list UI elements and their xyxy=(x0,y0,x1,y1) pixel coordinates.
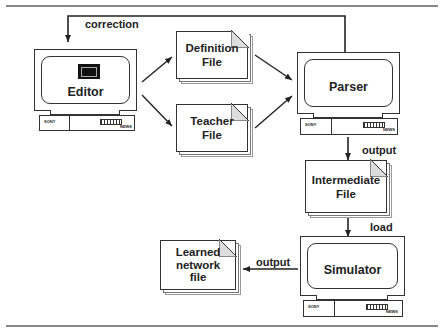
simulator-workstation: Simulator SONY NEWS xyxy=(300,236,405,318)
definition-file: DefinitionFile xyxy=(176,31,248,79)
monitor-screen: Simulator xyxy=(307,243,398,289)
disk-slot xyxy=(363,122,385,128)
simulator-title: Simulator xyxy=(308,263,397,277)
correction-label: correction xyxy=(85,18,139,30)
monitor-case: Simulator xyxy=(300,236,405,296)
simulator-output-label: output xyxy=(256,256,290,268)
monitor-screen: Parser xyxy=(304,59,393,107)
cpu-unit: SONY NEWS xyxy=(39,115,135,131)
editor-to-teacher-arrow xyxy=(142,95,172,126)
intermediate-file: IntermediateFile xyxy=(305,160,387,213)
window-icon xyxy=(78,64,100,79)
definition-to-parser-arrow xyxy=(255,55,292,80)
learned-network-file: Learnednetworkfile xyxy=(160,240,236,290)
editor-to-definition-arrow xyxy=(142,57,172,82)
parser-workstation: Parser SONY NEWS xyxy=(297,52,400,136)
workflow-diagram: correction output load output Editor SON… xyxy=(0,0,444,332)
teacher-file: TeacherFile xyxy=(176,104,248,152)
monitor-case: Editor xyxy=(34,49,137,111)
disk-slot xyxy=(366,304,388,310)
cpu-unit: SONY NEWS xyxy=(300,118,398,135)
teacher-to-parser-arrow xyxy=(255,96,292,128)
monitor-case: Parser xyxy=(297,52,400,114)
monitor-screen: Editor xyxy=(41,56,130,104)
editor-title: Editor xyxy=(42,85,129,99)
parser-title: Parser xyxy=(305,80,392,94)
editor-workstation: Editor SONY NEWS xyxy=(34,49,137,131)
cpu-unit: SONY NEWS xyxy=(303,300,403,317)
load-label: load xyxy=(370,221,393,233)
disk-slot xyxy=(100,119,122,125)
parser-output-label: output xyxy=(362,144,396,156)
